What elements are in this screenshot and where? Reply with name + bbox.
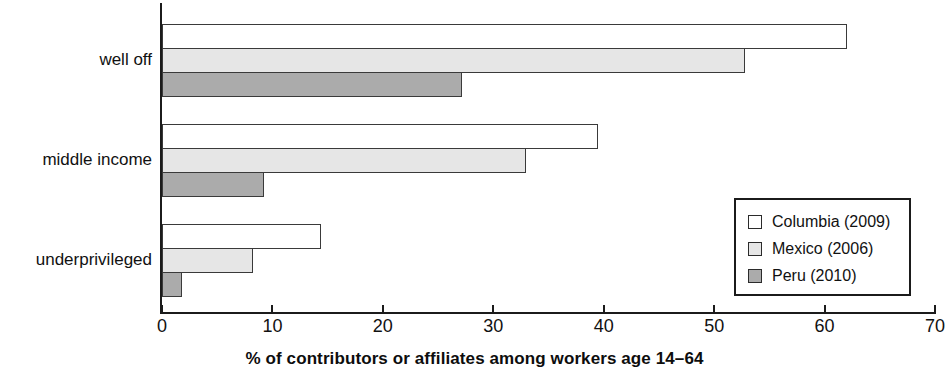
category-label-text: well off <box>99 50 152 69</box>
x-axis-title: % of contributors or affiliates among wo… <box>0 349 949 369</box>
tick-mark <box>713 305 715 314</box>
bar <box>162 148 526 173</box>
tick-mark <box>603 305 605 314</box>
legend-item-columbia[interactable]: Columbia (2009) <box>748 208 909 235</box>
tick-label: 30 <box>483 316 503 337</box>
tick-label: 40 <box>594 316 614 337</box>
bar <box>162 272 182 297</box>
bar <box>162 172 264 197</box>
category-label-well-off: well off <box>0 50 152 70</box>
legend-item-mexico[interactable]: Mexico (2006) <box>748 235 909 262</box>
tick-mark <box>382 305 384 314</box>
tick-mark <box>492 305 494 314</box>
tick-mark <box>161 305 163 314</box>
tick-mark <box>824 305 826 314</box>
tick-mark <box>934 305 936 314</box>
bar <box>162 72 462 97</box>
tick-label: 20 <box>373 316 393 337</box>
gray-square-icon <box>748 269 762 283</box>
tick-mark <box>271 305 273 314</box>
tick-label: 50 <box>704 316 724 337</box>
light-gray-square-icon <box>748 242 762 256</box>
category-label-text: underprivileged <box>36 250 152 269</box>
bar <box>162 124 598 149</box>
bar <box>162 224 321 249</box>
category-label-text: middle income <box>42 150 152 169</box>
tick-label: 10 <box>262 316 282 337</box>
tick-label: 60 <box>815 316 835 337</box>
bar-chart: well off middle income underprivileged 0… <box>0 0 949 378</box>
legend-label: Peru (2010) <box>772 267 857 285</box>
category-label-underprivileged: underprivileged <box>0 250 152 270</box>
legend-label: Mexico (2006) <box>772 240 873 258</box>
bar <box>162 48 745 73</box>
legend-item-peru[interactable]: Peru (2010) <box>748 262 909 289</box>
tick-label: 70 <box>925 316 945 337</box>
category-label-middle-income: middle income <box>0 150 152 170</box>
bar <box>162 248 253 273</box>
legend-label: Columbia (2009) <box>772 213 890 231</box>
legend: Columbia (2009) Mexico (2006) Peru (2010… <box>734 198 911 296</box>
bar <box>162 24 847 49</box>
white-square-icon <box>748 215 762 229</box>
tick-label: 0 <box>157 316 167 337</box>
